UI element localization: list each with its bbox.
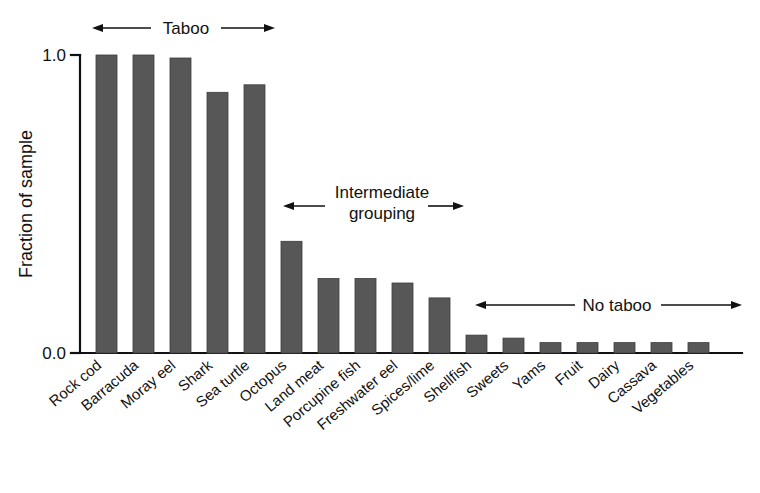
bar xyxy=(207,92,228,353)
y-axis-title: Fraction of sample xyxy=(16,130,36,278)
bar xyxy=(614,343,635,353)
category-label: Sweets xyxy=(463,356,512,401)
y-tick-label-top: 1.0 xyxy=(42,46,66,65)
bar xyxy=(688,343,709,353)
bar xyxy=(318,279,339,354)
intermediate-label-line1: Intermediate xyxy=(335,183,430,202)
category-label: Yams xyxy=(509,356,548,393)
bar xyxy=(244,85,265,353)
bar xyxy=(503,338,524,353)
y-axis: 1.0 0.0 Fraction of sample xyxy=(16,46,80,363)
no-taboo-right-arrowhead xyxy=(731,301,742,309)
bar xyxy=(355,279,376,354)
intermediate-right-arrowhead xyxy=(453,202,464,210)
taboo-label: Taboo xyxy=(163,19,209,38)
annotation-intermediate-grouping: Intermediate grouping xyxy=(283,183,464,223)
intermediate-label-line2: grouping xyxy=(349,204,415,223)
category-labels-group: Rock codBarracudaMoray eelSharkSea turtl… xyxy=(46,356,697,433)
bar xyxy=(96,55,117,353)
bar xyxy=(170,58,191,353)
annotation-no-taboo: No taboo xyxy=(475,296,742,315)
bar xyxy=(281,241,302,353)
bar-chart-figure: 1.0 0.0 Fraction of sample Rock codBarra… xyxy=(0,0,760,493)
bar xyxy=(133,55,154,353)
no-taboo-label: No taboo xyxy=(583,296,652,315)
bar xyxy=(392,283,413,353)
taboo-right-arrowhead xyxy=(264,24,275,32)
chart-canvas: 1.0 0.0 Fraction of sample Rock codBarra… xyxy=(0,0,760,493)
bar xyxy=(651,343,672,353)
taboo-left-arrowhead xyxy=(92,24,103,32)
annotation-taboo: Taboo xyxy=(92,19,275,38)
bar xyxy=(429,298,450,353)
category-label: Fruit xyxy=(552,356,587,389)
intermediate-left-arrowhead xyxy=(283,202,294,210)
bar xyxy=(540,343,561,353)
no-taboo-left-arrowhead xyxy=(475,301,486,309)
bar xyxy=(466,335,487,353)
bar xyxy=(577,343,598,353)
y-tick-label-bottom: 0.0 xyxy=(42,344,66,363)
